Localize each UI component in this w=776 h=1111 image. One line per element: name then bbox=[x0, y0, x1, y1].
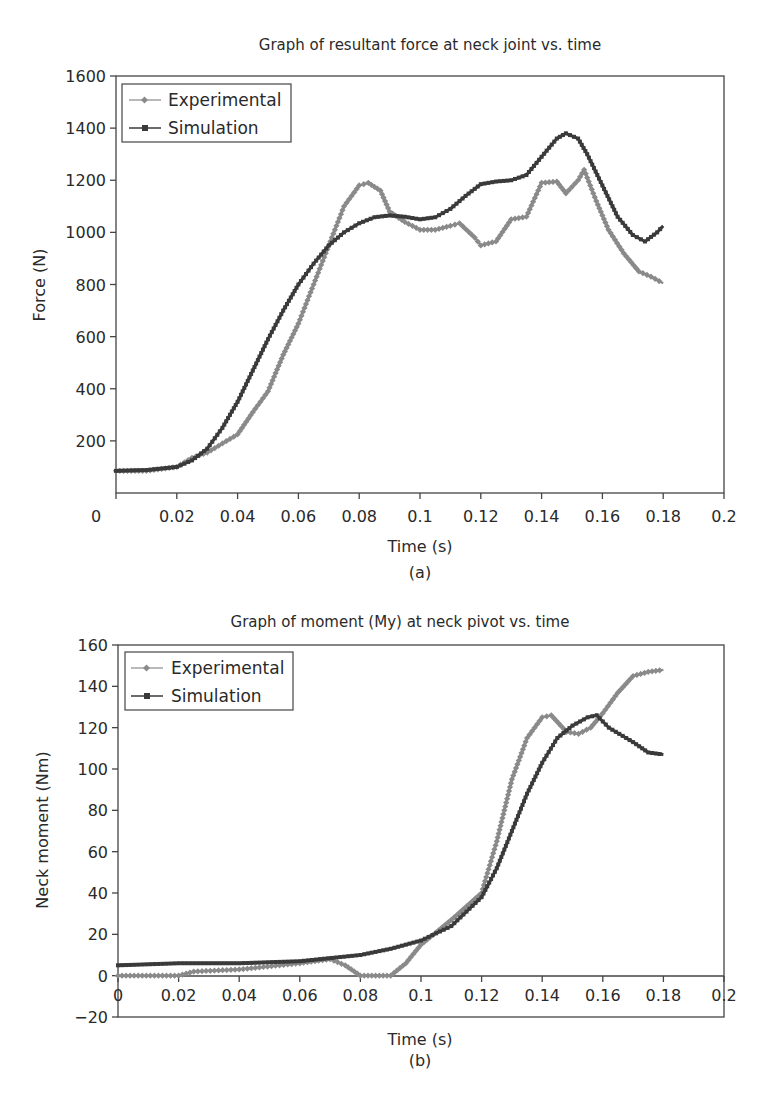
y-tick-label: 60 bbox=[88, 843, 108, 862]
x-tick-label: 0.12 bbox=[463, 507, 499, 526]
x-tick-label: 0.18 bbox=[645, 507, 681, 526]
chart-a-x-axis: 00.020.040.060.080.10.120.140.160.180.2 bbox=[91, 493, 737, 526]
x-tick-label: 0.2 bbox=[711, 507, 736, 526]
x-tick-label: 0.06 bbox=[281, 507, 317, 526]
y-tick-label: 1600 bbox=[65, 67, 106, 86]
chart-b-title: Graph of moment (My) at neck pivot vs. t… bbox=[231, 613, 570, 631]
chart-a-subtitle: (a) bbox=[409, 563, 431, 582]
chart-a-y-axis: 2004006008001000120014001600 bbox=[65, 67, 116, 451]
y-tick-label: 200 bbox=[75, 432, 106, 451]
x-tick-label: 0.02 bbox=[159, 507, 195, 526]
x-tick-label: 0.2 bbox=[711, 986, 736, 1005]
chart-a-legend: Experimental Simulation bbox=[122, 84, 291, 142]
x-tick-label: 0.14 bbox=[524, 507, 560, 526]
y-tick-label: 0 bbox=[98, 967, 108, 986]
chart-b-y-label: Neck moment (Nm) bbox=[33, 751, 52, 908]
legend-experimental: Experimental bbox=[171, 658, 284, 678]
chart-b-moment: Graph of moment (My) at neck pivot vs. t… bbox=[33, 613, 737, 1070]
x-tick-label: 0.08 bbox=[343, 986, 379, 1005]
legend-experimental: Experimental bbox=[168, 90, 281, 110]
y-tick-label: 160 bbox=[77, 636, 108, 655]
chart-b-x-axis: 00.020.040.060.080.10.120.140.160.180.2 bbox=[113, 976, 737, 1005]
x-tick-label: 0.1 bbox=[408, 986, 433, 1005]
x-tick-label: 0.04 bbox=[220, 507, 256, 526]
chart-b-subtitle: (b) bbox=[409, 1051, 432, 1070]
chart-b-x-label: Time (s) bbox=[386, 1030, 452, 1049]
y-tick-label: −20 bbox=[74, 1008, 108, 1027]
simulation-marker-icon bbox=[144, 693, 150, 699]
chart-a-series bbox=[113, 131, 663, 474]
chart-b-legend: Experimental Simulation bbox=[125, 652, 293, 710]
chart-a-y-label: Force (N) bbox=[30, 249, 49, 322]
series-line-simulation bbox=[118, 715, 663, 965]
y-tick-label: 1400 bbox=[65, 119, 106, 138]
x-tick-label: 0.02 bbox=[161, 986, 197, 1005]
x-tick-label: 0.14 bbox=[524, 986, 560, 1005]
y-tick-label: 120 bbox=[77, 719, 108, 738]
series-line-simulation bbox=[116, 133, 663, 471]
chart-a-title: Graph of resultant force at neck joint v… bbox=[259, 36, 601, 54]
y-tick-label: 140 bbox=[77, 677, 108, 696]
x-tick-label: 0.08 bbox=[341, 507, 377, 526]
x-tick-label: 0.18 bbox=[646, 986, 682, 1005]
chart-b-series bbox=[115, 667, 664, 979]
x-tick-label: 0.1 bbox=[407, 507, 432, 526]
y-tick-label: 1200 bbox=[65, 171, 106, 190]
y-tick-label: 1000 bbox=[65, 223, 106, 242]
x-tick-label: 0.12 bbox=[464, 986, 500, 1005]
legend-simulation: Simulation bbox=[168, 118, 259, 138]
legend-simulation: Simulation bbox=[171, 686, 262, 706]
y-tick-label: 20 bbox=[88, 925, 108, 944]
y-tick-label: 100 bbox=[77, 760, 108, 779]
figure: Graph of resultant force at neck joint v… bbox=[0, 0, 776, 1111]
series-line-experimental bbox=[118, 670, 663, 976]
y-tick-label: 400 bbox=[75, 380, 106, 399]
y-tick-label: 600 bbox=[75, 328, 106, 347]
x-tick-label: 0 bbox=[113, 986, 123, 1005]
chart-a-x-label: Time (s) bbox=[386, 537, 452, 556]
x-tick-label: 0 bbox=[91, 507, 101, 526]
y-tick-label: 40 bbox=[88, 884, 108, 903]
chart-a-force: Graph of resultant force at neck joint v… bbox=[30, 36, 737, 582]
x-tick-label: 0.16 bbox=[585, 986, 621, 1005]
x-tick-label: 0.06 bbox=[282, 986, 318, 1005]
y-tick-label: 800 bbox=[75, 276, 106, 295]
y-tick-label: 80 bbox=[88, 801, 108, 820]
chart-b-y-axis: −20020406080100120140160 bbox=[74, 636, 118, 1027]
simulation-marker-icon bbox=[142, 125, 148, 131]
x-tick-label: 0.04 bbox=[221, 986, 257, 1005]
x-tick-label: 0.16 bbox=[585, 507, 621, 526]
